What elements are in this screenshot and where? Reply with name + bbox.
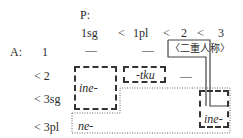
col-2: 2 bbox=[181, 27, 187, 39]
col-3: 3 bbox=[218, 27, 224, 39]
col-lt-1: < bbox=[118, 27, 125, 39]
row-a-label: A: bbox=[10, 46, 22, 58]
row-3sg-label: < 3sg bbox=[34, 93, 60, 105]
row-3pl-label: < 3pl bbox=[34, 121, 59, 133]
ne-text: ne- bbox=[78, 120, 93, 132]
cell-1-1sg: — bbox=[85, 44, 97, 56]
col-1sg: 1sg bbox=[81, 27, 98, 39]
col-lt-3: < bbox=[197, 27, 204, 39]
col-lt-2: < bbox=[163, 27, 170, 39]
row-1-label: 1 bbox=[42, 46, 48, 58]
ine-left-text: ine- bbox=[79, 82, 98, 94]
ine-right-box: ine- bbox=[199, 90, 229, 128]
ine-right-text: ine- bbox=[204, 113, 223, 125]
p-label: P: bbox=[80, 9, 90, 21]
row-2-label: < 2 bbox=[34, 70, 50, 82]
cell-2-2: — bbox=[180, 70, 192, 82]
cell-1-1pl: — bbox=[142, 44, 154, 56]
col-1pl: 1pl bbox=[133, 27, 148, 39]
tku-box: -tku bbox=[123, 66, 166, 83]
tku-text: -tku bbox=[136, 69, 155, 81]
ine-left-box: ine- bbox=[74, 66, 117, 110]
dual-person-label: 〈二重人称〉 bbox=[170, 43, 230, 55]
